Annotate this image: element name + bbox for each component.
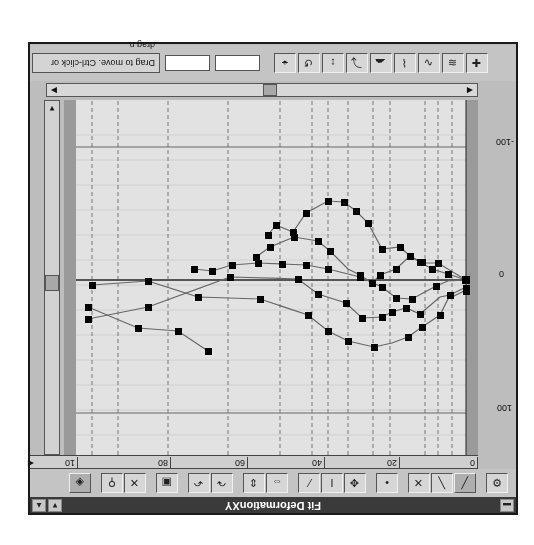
curve-b-button[interactable]: ╲ — [431, 473, 453, 493]
scroll-right-arrow-2[interactable]: ▶ — [47, 84, 61, 96]
move-icon: ✥ — [351, 477, 360, 490]
tool-1-button[interactable]: ≋ — [442, 53, 464, 73]
curve-c-button[interactable]: ✕ — [408, 473, 430, 493]
y-tick: 0 — [474, 269, 504, 279]
maximize-button[interactable]: ▲ — [32, 499, 46, 512]
bottom-toolbar: ✚ ≋ ∿ ⌇ ☁ ⤵ ↕ ↺ ⌖ Drag to move. Ctrl-cli… — [30, 45, 516, 81]
tool-7-button[interactable]: ↺ — [298, 53, 320, 73]
point-icon: • — [385, 477, 389, 489]
expand-h-button[interactable]: ⇔ — [266, 473, 288, 493]
tool-3-icon: ⌇ — [403, 57, 408, 70]
x-tick: 80 — [158, 457, 171, 468]
gear-icon: ⚙ — [492, 477, 502, 490]
expand-v-button[interactable]: ⇕ — [243, 473, 265, 493]
title-bar[interactable]: ▬ Fit DeformationXY ▼ ▲ — [30, 497, 516, 513]
curve-a-icon: ╱ — [462, 477, 469, 490]
tool-4-button[interactable]: ☁ — [370, 53, 392, 73]
x-tick: 20 — [387, 457, 400, 468]
x-tick: 0 — [470, 457, 478, 468]
tool-6-icon: ↕ — [330, 57, 336, 69]
curve-fit-icon: ⁄ — [308, 477, 310, 489]
up-arrow-icon: ▲ — [35, 501, 43, 510]
tool-2-icon: ∿ — [425, 57, 434, 70]
vertical-scroll-thumb[interactable] — [45, 275, 59, 291]
y-tick: -100 — [484, 137, 514, 147]
vertical-scrollbar[interactable]: ▼ — [44, 100, 60, 455]
down-arrow-icon: ▼ — [51, 501, 59, 510]
horizontal-scrollbar[interactable]: ◀ ▶ — [46, 83, 478, 97]
horizontal-scroll-thumb[interactable] — [263, 84, 277, 96]
status-message: Drag to move. Ctrl-click or drag n — [32, 53, 160, 73]
delete-icon: ✕ — [131, 477, 140, 490]
pin-button[interactable]: ⚲ — [101, 473, 123, 493]
redo-icon: ↷ — [218, 477, 227, 490]
lock-button[interactable]: ▣ — [156, 473, 178, 493]
pin-icon: ⚲ — [108, 477, 116, 490]
tool-8-button[interactable]: ⌖ — [274, 53, 296, 73]
y-tick: 100 — [482, 403, 512, 413]
tool-3-button[interactable]: ⌇ — [394, 53, 416, 73]
x-tick: 60 — [235, 457, 248, 468]
curve-fit-button[interactable]: ⁄ — [298, 473, 320, 493]
tool-2-button[interactable]: ∿ — [418, 53, 440, 73]
tool-7-icon: ↺ — [305, 57, 314, 70]
curve-c-icon: ✕ — [415, 477, 424, 490]
tool-1-icon: ≋ — [449, 57, 458, 70]
tool-5-icon: ⤵ — [352, 55, 363, 71]
x-tick: 10 — [65, 457, 78, 468]
undo-button[interactable]: ↶ — [188, 473, 210, 493]
tool-5-button[interactable]: ⤵ — [346, 53, 368, 73]
window-title: Fit DeformationXY — [30, 500, 516, 512]
plot-canvas[interactable] — [64, 100, 478, 455]
ibeam-icon: I — [330, 477, 333, 489]
add-point-button[interactable]: ✚ — [466, 53, 488, 73]
redo-button[interactable]: ↷ — [211, 473, 233, 493]
snapshot-button[interactable]: ◈ — [69, 473, 91, 493]
vertical-bar-button[interactable]: I — [321, 473, 343, 493]
x-tick: 40 — [312, 457, 325, 468]
snapshot-icon: ◈ — [76, 477, 84, 490]
options-button[interactable]: ⚙ — [486, 473, 508, 493]
tool-8-icon: ⌖ — [282, 57, 288, 70]
value-field-1[interactable] — [215, 55, 260, 71]
x-axis-ruler: 0 20 40 60 80 10 — [30, 455, 478, 469]
value-field-2[interactable] — [165, 55, 210, 71]
scroll-left-arrow[interactable]: ◀ — [463, 84, 477, 96]
scroll-right-arrow[interactable]: ◀ — [24, 457, 38, 469]
expand-horizontal-icon: ⇔ — [272, 477, 283, 489]
minimize-button[interactable]: ▼ — [48, 499, 62, 512]
top-toolbar: ⚙ ╱ ╲ ✕ • ✥ I ⁄ ⇔ ⇕ ↷ ↶ ▣ ✕ ⚲ ◈ — [30, 469, 516, 497]
curve-a-button[interactable]: ╱ — [454, 473, 476, 493]
tool-4-icon: ☁ — [376, 57, 387, 70]
undo-icon: ↶ — [195, 477, 204, 490]
add-point-icon: ✚ — [473, 57, 482, 70]
delete-button[interactable]: ✕ — [124, 473, 146, 493]
deformation-plot[interactable] — [64, 100, 478, 455]
move-button[interactable]: ✥ — [344, 473, 366, 493]
scroll-down-arrow[interactable]: ▼ — [45, 102, 59, 114]
expand-vertical-icon: ⇕ — [250, 477, 259, 490]
curve-b-icon: ╲ — [439, 477, 446, 490]
fit-deformation-window: ▬ Fit DeformationXY ▼ ▲ ⚙ ╱ ╲ ✕ • ✥ I ⁄ … — [28, 42, 518, 515]
select-point-button[interactable]: • — [376, 473, 398, 493]
lock-icon: ▣ — [162, 477, 172, 490]
tool-6-button[interactable]: ↕ — [322, 53, 344, 73]
